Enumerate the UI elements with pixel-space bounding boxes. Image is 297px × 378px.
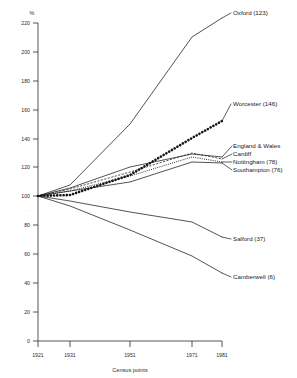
- y-axis-ticks: [33, 23, 38, 341]
- chart-canvas: % 0 20 40 60: [0, 0, 297, 378]
- y-tick-label-20: 20: [24, 309, 30, 315]
- y-tick-label-200: 200: [21, 49, 30, 55]
- y-tick-label-0: 0: [27, 338, 30, 344]
- y-tick-label-120: 120: [21, 164, 30, 170]
- y-tick-label-100: 100: [21, 193, 30, 199]
- leader-england-wales: [222, 146, 232, 157]
- series-line-camberwell: [38, 196, 222, 273]
- x-tick-label-1931: 1931: [64, 352, 76, 358]
- y-axis: 0 20 40 60 80 100 120 140 160 180 200 22…: [21, 20, 38, 344]
- y-axis-unit-label: %: [30, 10, 35, 16]
- y-axis-artifact-mark: ·: [28, 208, 30, 213]
- series-label-cardiff: Cardiff: [233, 150, 251, 157]
- y-tick-label-60: 60: [24, 251, 30, 257]
- series-line-salford: [38, 196, 222, 237]
- x-tick-label-1921: 1921: [32, 352, 44, 358]
- population-index-chart: % 0 20 40 60: [0, 0, 297, 378]
- leader-southampton: [222, 163, 232, 170]
- x-axis-ticks: [38, 341, 222, 347]
- y-tick-label-220: 220: [21, 20, 30, 26]
- y-axis-tick-labels: 0 20 40 60 80 100 120 140 160 180 200 22…: [21, 20, 30, 344]
- leader-oxford: [222, 13, 231, 18]
- x-tick-label-1951: 1951: [124, 352, 136, 358]
- y-tick-label-80: 80: [24, 222, 30, 228]
- x-tick-label-1971: 1971: [186, 352, 198, 358]
- x-tick-label-1981: 1981: [216, 352, 228, 358]
- series-label-england-wales: England & Wales: [233, 142, 280, 149]
- series-group: [38, 18, 222, 273]
- series-label-salford: Salford (37): [233, 235, 265, 242]
- y-tick-label-140: 140: [21, 136, 30, 142]
- series-label-southampton: Southampton (76): [233, 166, 283, 173]
- leader-cardiff: [222, 154, 232, 159]
- series-line-worcester: [38, 121, 222, 196]
- series-label-camberwell: Camberwell (6): [233, 273, 275, 280]
- series-line-oxford: [38, 18, 222, 196]
- series-label-nottingham: Nottingham (78): [233, 158, 277, 165]
- y-tick-label-160: 160: [21, 107, 30, 113]
- y-tick-label-40: 40: [24, 280, 30, 286]
- leader-salford: [222, 237, 231, 239]
- label-leader-lines: [222, 13, 232, 277]
- x-axis-title: Census points: [112, 367, 148, 373]
- leader-camberwell: [222, 273, 231, 277]
- series-labels: Oxford (123) Worcester (146) England & W…: [233, 9, 283, 280]
- series-label-oxford: Oxford (123): [233, 9, 268, 16]
- leader-worcester: [222, 104, 231, 121]
- x-axis: 1921 1931 1951 1971 1981 Census points: [32, 341, 228, 373]
- y-tick-label-180: 180: [21, 78, 30, 84]
- series-label-worcester: Worcester (146): [233, 100, 277, 107]
- series-line-nottingham: [38, 157, 222, 196]
- x-axis-tick-labels: 1921 1931 1951 1971 1981: [32, 352, 228, 358]
